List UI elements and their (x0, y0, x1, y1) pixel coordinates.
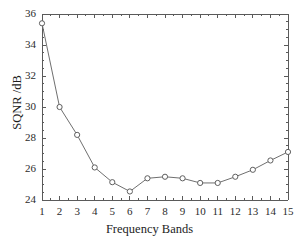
data-point (268, 158, 273, 163)
data-point (39, 21, 44, 26)
y-tick-label: 24 (8, 194, 36, 205)
data-point (233, 174, 238, 179)
data-point (198, 180, 203, 185)
y-tick-label: 36 (8, 8, 36, 19)
data-point (285, 149, 290, 154)
data-point (145, 176, 150, 181)
y-axis-title: SQNR /dB (10, 43, 25, 163)
chart-figure: 24262830323436 123456789101112131415 Fre… (0, 0, 299, 242)
data-point (110, 180, 115, 185)
data-point (75, 132, 80, 137)
data-point (92, 165, 97, 170)
data-point (57, 104, 62, 109)
y-tick-label: 26 (8, 163, 36, 174)
data-point (162, 174, 167, 179)
data-point (215, 180, 220, 185)
data-point (127, 189, 132, 194)
x-tick-label: 15 (276, 206, 299, 217)
x-axis-title: Frequency Bands (0, 222, 299, 237)
data-point (250, 167, 255, 172)
data-point (180, 176, 185, 181)
